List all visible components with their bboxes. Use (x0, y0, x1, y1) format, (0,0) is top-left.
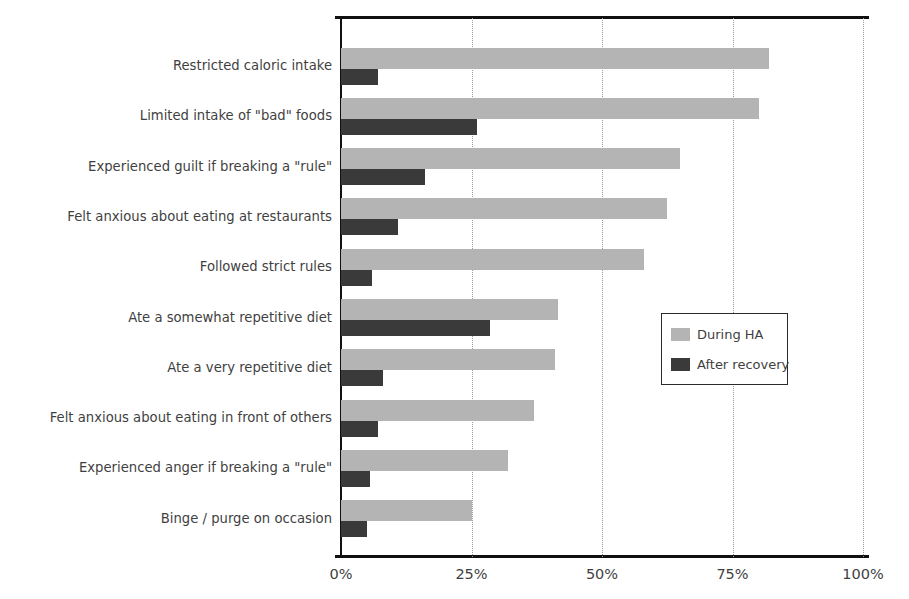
category-label: Ate a very repetitive diet (2, 361, 332, 374)
bar-after-recovery (341, 219, 398, 235)
bar-after-recovery (341, 421, 378, 437)
bar-during-ha (341, 400, 534, 421)
bar-after-recovery (341, 471, 370, 487)
bar-during-ha (341, 48, 769, 69)
bar-during-ha (341, 500, 472, 521)
bar-during-ha (341, 450, 508, 471)
category-label: Restricted caloric intake (2, 59, 332, 72)
bar-during-ha (341, 349, 555, 370)
bar-after-recovery (341, 270, 372, 286)
x-tick-label: 100% (842, 566, 883, 582)
legend-label-during-ha: During HA (697, 328, 764, 341)
bar-after-recovery (341, 370, 383, 386)
category-label: Experienced guilt if breaking a "rule" (2, 160, 332, 173)
legend-swatch-after-recovery (671, 358, 690, 371)
bar-during-ha (341, 148, 680, 169)
bar-after-recovery (341, 69, 378, 85)
gridline (863, 18, 865, 557)
x-tick-label: 0% (329, 566, 352, 582)
category-label: Ate a somewhat repetitive diet (2, 311, 332, 324)
bar-during-ha (341, 249, 644, 270)
legend-swatch-during-ha (671, 328, 690, 341)
category-label: Followed strict rules (2, 260, 332, 273)
bar-during-ha (341, 98, 759, 119)
bar-after-recovery (341, 521, 367, 537)
bar-during-ha (341, 299, 558, 320)
category-label: Felt anxious about eating at restaurants (2, 210, 332, 223)
x-tick-label: 75% (716, 566, 748, 582)
x-tick-label: 50% (586, 566, 618, 582)
bar-after-recovery (341, 320, 490, 336)
legend-label-after-recovery: After recovery (697, 358, 789, 371)
category-axis-labels: Restricted caloric intakeLimited intake … (0, 0, 332, 599)
bar-chart: Restricted caloric intakeLimited intake … (0, 0, 909, 599)
chart-legend: During HA After recovery (661, 313, 788, 385)
category-label: Binge / purge on occasion (2, 512, 332, 525)
category-label: Experienced anger if breaking a "rule" (2, 461, 332, 474)
bar-after-recovery (341, 169, 425, 185)
legend-item-after-recovery: After recovery (671, 358, 789, 371)
category-label: Limited intake of "bad" foods (2, 109, 332, 122)
bar-during-ha (341, 198, 667, 219)
x-tick-label: 25% (455, 566, 487, 582)
bar-after-recovery (341, 119, 477, 135)
legend-item-during-ha: During HA (671, 328, 764, 341)
category-label: Felt anxious about eating in front of ot… (2, 411, 332, 424)
